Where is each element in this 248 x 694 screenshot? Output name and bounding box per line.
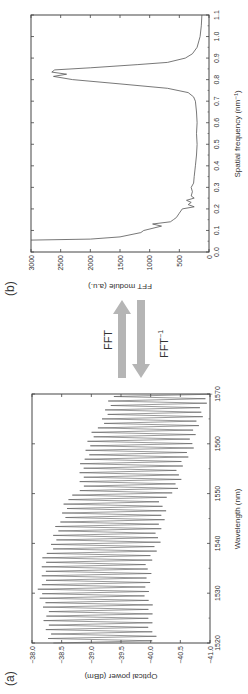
svg-text:1560: 1560 [214, 436, 221, 452]
svg-text:0.3: 0.3 [213, 182, 220, 192]
svg-text:0.4: 0.4 [213, 161, 220, 171]
panel-b: (b) 0.00.10.20.30.40.50.60.70.80.91.01.1… [3, 10, 242, 296]
svg-text:−40.0: −40.0 [147, 646, 154, 664]
svg-text:1500: 1500 [117, 255, 124, 271]
svg-text:−39.0: −39.0 [88, 646, 95, 664]
svg-text:0.9: 0.9 [213, 53, 220, 63]
plot-b-ylabel: FFT module (a.u.) [88, 282, 152, 291]
panel-a-label: (a) [3, 671, 17, 686]
plot-a-fringes [38, 394, 213, 643]
svg-text:0.1: 0.1 [213, 225, 220, 235]
fft-label: FFT [102, 330, 114, 350]
plot-a-xlabel: Wavelength (nm) [233, 488, 242, 549]
svg-text:500: 500 [176, 255, 183, 267]
ifft-arrow-left-icon [132, 300, 150, 378]
svg-text:1520: 1520 [214, 635, 221, 651]
svg-text:−38.5: −38.5 [58, 646, 65, 664]
svg-text:2500: 2500 [57, 255, 64, 271]
svg-text:1000: 1000 [146, 255, 153, 271]
fft-arrow-right-icon [113, 300, 131, 378]
svg-text:−41.0: −41.0 [207, 646, 214, 664]
svg-text:1550: 1550 [214, 486, 221, 502]
svg-text:−39.5: −39.5 [118, 646, 125, 664]
svg-text:0.6: 0.6 [213, 118, 220, 128]
svg-text:1.1: 1.1 [213, 10, 220, 20]
plot-b-xlabel: Spatial frequency (nm⁻¹) [233, 90, 242, 177]
svg-text:−38.0: −38.0 [29, 646, 36, 664]
svg-text:0.0: 0.0 [213, 247, 220, 257]
svg-text:3000: 3000 [28, 255, 35, 271]
svg-text:0: 0 [206, 255, 213, 259]
plot-a-ylabel: Optical power (dBm) [84, 672, 157, 681]
svg-text:1530: 1530 [214, 585, 221, 601]
svg-text:0.7: 0.7 [213, 96, 220, 106]
plot-b-ticks: 0.00.10.20.30.40.50.60.70.80.91.01.10500… [28, 10, 221, 271]
svg-text:2000: 2000 [87, 255, 94, 271]
svg-text:−40.5: −40.5 [177, 646, 184, 664]
svg-text:1570: 1570 [214, 386, 221, 402]
svg-text:0.8: 0.8 [213, 75, 220, 85]
fft-arrows: FFT FFT−1 [102, 300, 170, 378]
figure: (a) 152015301540155015601570−38.0−38.5−3… [0, 0, 248, 694]
panel-b-label: (b) [3, 281, 17, 296]
plot-b-frame [31, 15, 209, 252]
plot-b-spectrum [31, 15, 202, 240]
svg-text:1.0: 1.0 [213, 32, 220, 42]
svg-text:0.5: 0.5 [213, 139, 220, 149]
svg-text:0.2: 0.2 [213, 204, 220, 214]
panel-a: (a) 152015301540155015601570−38.0−38.5−3… [3, 386, 242, 686]
ifft-label: FFT−1 [157, 330, 170, 358]
svg-text:1540: 1540 [214, 536, 221, 552]
